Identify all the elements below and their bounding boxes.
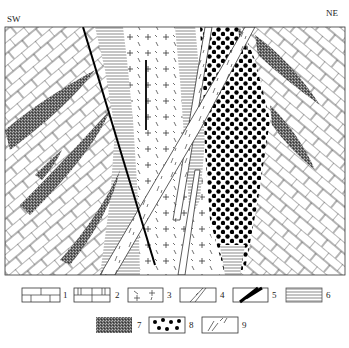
legend-swatch-3 — [128, 288, 163, 302]
sw-label: SW — [7, 14, 21, 24]
legend-swatch-6 — [286, 288, 322, 302]
legend-num-2: 2 — [115, 290, 120, 300]
ne-label: NE — [326, 8, 338, 18]
legend-num-5: 5 — [272, 290, 277, 300]
legend-num-1: 1 — [63, 290, 68, 300]
legend-swatch-4 — [180, 288, 216, 302]
legend-num-8: 8 — [189, 320, 194, 330]
legend-num-9: 9 — [242, 320, 247, 330]
legend-swatch-7 — [96, 317, 132, 333]
legend-num-6: 6 — [326, 290, 331, 300]
legend-num-7: 7 — [137, 320, 142, 330]
legend-num-4: 4 — [220, 290, 225, 300]
geological-cross-section — [0, 0, 349, 348]
legend-num-3: 3 — [167, 290, 172, 300]
legend-swatch-9 — [202, 317, 238, 333]
